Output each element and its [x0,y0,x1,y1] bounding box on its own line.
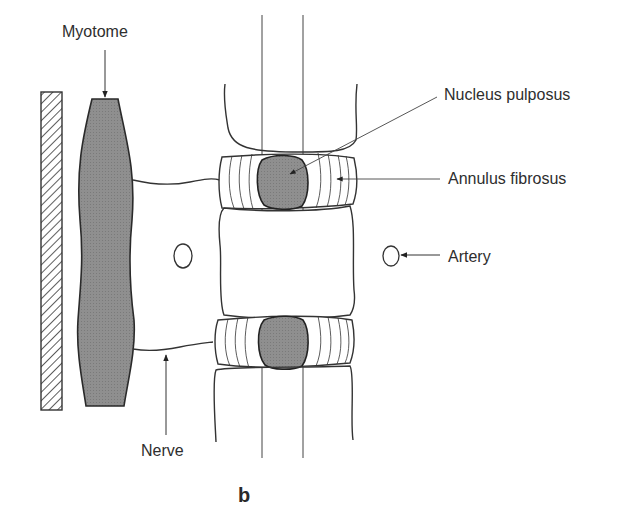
nerve-upper [133,179,220,184]
annulus-fibrosus-label: Annulus fibrosus [448,171,566,187]
nucleus-pulposus-lower [258,316,308,369]
artery-label: Artery [448,249,491,265]
panel-label: b [238,485,250,505]
myotome-shape [78,99,135,406]
nerve-lower [133,342,213,350]
artery-left [174,244,192,268]
nerve-label: Nerve [141,443,184,459]
myotome-label: Myotome [62,24,128,40]
spine-diagram [0,0,639,524]
nucleus-pulposus-upper [257,155,308,209]
hatched-bar [41,92,62,410]
vertebra-bottom [214,366,353,442]
nucleus-pulposus-label: Nucleus pulposus [444,87,570,103]
vertebra-top [224,84,357,152]
artery-right [383,246,399,266]
nucleus-pulposus-arrow [290,97,437,174]
vertebra-middle [219,206,354,319]
